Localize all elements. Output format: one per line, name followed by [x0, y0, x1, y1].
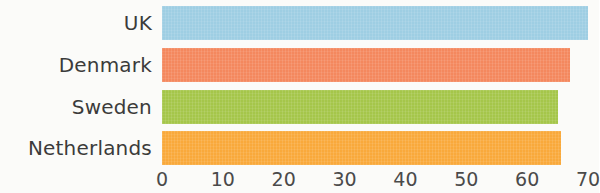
bar-row [162, 48, 570, 82]
bar-row [162, 131, 561, 165]
x-axis: 010203040506070 [162, 165, 599, 193]
x-tick-label: 50 [454, 168, 478, 190]
x-tick-label: 60 [515, 168, 539, 190]
x-tick-label: 10 [211, 168, 235, 190]
category-label-sweden: Sweden [0, 90, 152, 124]
x-tick-label: 40 [393, 168, 417, 190]
x-tick-label: 70 [576, 168, 600, 190]
bar-uk [162, 6, 588, 40]
bar-denmark [162, 48, 570, 82]
category-label-denmark: Denmark [0, 48, 152, 82]
category-axis-labels: UK Denmark Sweden Netherlands [0, 0, 152, 165]
x-tick-label: 20 [272, 168, 296, 190]
bar-sweden [162, 90, 558, 124]
plot-area [162, 0, 599, 165]
bar-row [162, 6, 588, 40]
bar-netherlands [162, 131, 561, 165]
category-label-netherlands: Netherlands [0, 131, 152, 165]
bar-row [162, 90, 558, 124]
x-tick-label: 30 [332, 168, 356, 190]
category-label-uk: UK [0, 6, 152, 40]
x-tick-label: 0 [156, 168, 168, 190]
